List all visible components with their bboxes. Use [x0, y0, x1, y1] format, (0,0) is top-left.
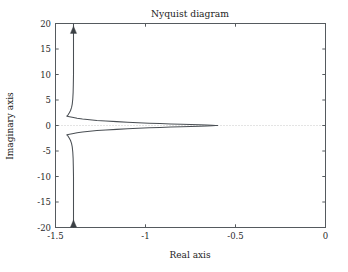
nyquist-curve-path — [67, 126, 218, 228]
x-tick-label: -1 — [141, 231, 149, 241]
chart-title: Nyquist diagram — [151, 8, 229, 19]
nyquist-diagram-figure: -20-15-10-505101520-1.5-1-0.50 Nyquist d… — [0, 0, 348, 272]
y-tick-label: -5 — [43, 146, 51, 156]
y-axis-title: Imaginary axis — [5, 92, 15, 160]
y-tick-label: -10 — [37, 172, 51, 182]
y-tick-label: -15 — [37, 197, 51, 207]
y-tick-label: 20 — [40, 19, 51, 29]
y-tick-label: 0 — [46, 121, 51, 131]
tick-labels-group: -20-15-10-505101520-1.5-1-0.50 — [37, 19, 328, 242]
nyquist-curve-path — [67, 24, 218, 126]
direction-arrow-lower — [70, 220, 76, 227]
y-tick-label: 15 — [40, 44, 51, 54]
y-tick-label: 5 — [46, 95, 51, 105]
direction-arrow-upper — [70, 26, 76, 33]
x-axis-title: Real axis — [169, 250, 211, 260]
x-tick-label: -1.5 — [47, 231, 63, 241]
plot-canvas: -20-15-10-505101520-1.5-1-0.50 Nyquist d… — [0, 0, 348, 272]
x-tick-label: -0.5 — [227, 231, 243, 241]
y-tick-label: 10 — [40, 70, 51, 80]
x-tick-label: 0 — [323, 231, 328, 241]
